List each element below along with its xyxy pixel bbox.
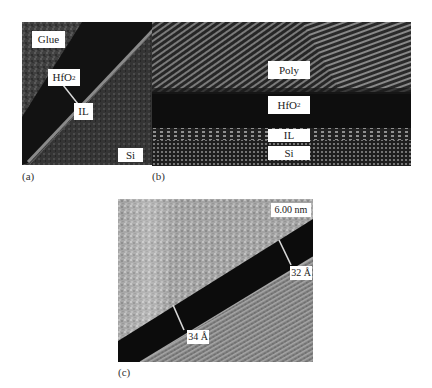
panel-b-micrograph: Poly HfO2 IL Si bbox=[152, 22, 411, 166]
panel-c-micrograph: 6.00 nm 32 Å 34 Å bbox=[118, 199, 313, 362]
label-si-b-text: Si bbox=[284, 148, 293, 159]
label-hfo2-b: HfO2 bbox=[268, 96, 310, 114]
label-glue: Glue bbox=[32, 31, 65, 48]
label-il-a-text: IL bbox=[78, 106, 88, 117]
label-poly: Poly bbox=[268, 61, 310, 79]
label-hfo2-a: HfO2 bbox=[48, 69, 80, 86]
label-glue-text: Glue bbox=[38, 34, 59, 45]
thickness-label-34: 34 Å bbox=[187, 330, 209, 344]
label-il-b: IL bbox=[268, 129, 310, 142]
scale-bar-label: 6.00 nm bbox=[271, 203, 311, 217]
panel-c-image bbox=[118, 199, 313, 362]
label-hfo2-a-text: HfO bbox=[52, 72, 72, 83]
thickness-label-32: 32 Å bbox=[290, 266, 312, 280]
thickness-32-text: 32 Å bbox=[291, 268, 311, 278]
label-il-b-text: IL bbox=[284, 130, 294, 141]
scale-bar-text: 6.00 nm bbox=[275, 205, 308, 215]
label-poly-text: Poly bbox=[279, 65, 299, 76]
thickness-34-text: 34 Å bbox=[188, 332, 208, 342]
label-il-a: IL bbox=[74, 103, 93, 120]
label-si-a-text: Si bbox=[126, 150, 135, 161]
caption-b: (b) bbox=[152, 170, 165, 182]
label-si-b: Si bbox=[268, 146, 310, 160]
panel-b-image bbox=[152, 22, 411, 166]
label-hfo2-b-text: HfO bbox=[277, 100, 297, 111]
panel-a-micrograph: Glue HfO2 IL Si bbox=[22, 22, 153, 165]
caption-a: (a) bbox=[22, 170, 34, 182]
label-si-a: Si bbox=[118, 148, 143, 162]
caption-c: (c) bbox=[118, 366, 130, 378]
